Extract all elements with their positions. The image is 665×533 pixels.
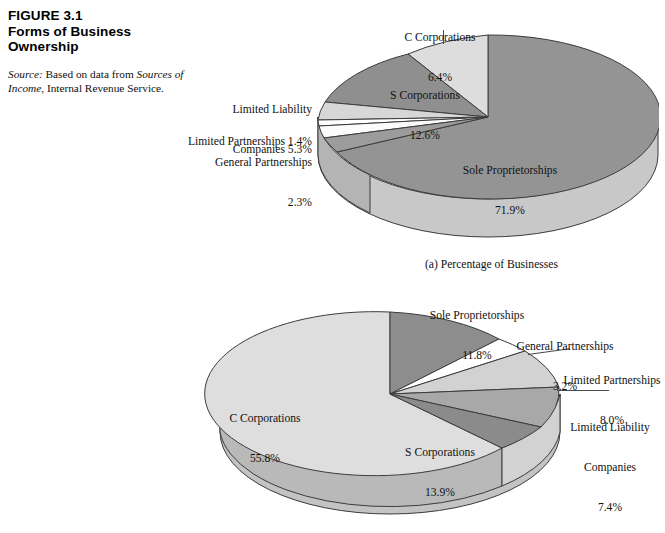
figure-title-line2: Ownership (8, 39, 198, 55)
label-s-corporations-b: S Corporations 13.9% (350, 419, 530, 526)
source-italic-2: Income (8, 82, 41, 94)
label-c-corporations-b: C Corporations 55.8% (175, 385, 355, 492)
source-label: Source: (8, 68, 43, 80)
figure-number: FIGURE 3.1 (8, 8, 198, 24)
caption-chart-a: (a) Percentage of Businesses (425, 258, 558, 271)
pie-chart-a: C Corporations 6.4% S Corporations 12.6%… (200, 0, 659, 280)
source-text-1: Based on data from (43, 68, 137, 80)
figure-title-line1: Forms of Business (8, 24, 198, 40)
label-limited-liability-companies-b: Limited Liability Companies 7.4% (530, 394, 665, 533)
label-general-partnerships: General Partnerships 2.3% (128, 129, 312, 236)
pie-chart-b: Sole Proprietorships 11.8% General Partn… (120, 280, 659, 533)
label-sole-proprietorships: Sole Proprietorships 71.9% (420, 137, 600, 244)
